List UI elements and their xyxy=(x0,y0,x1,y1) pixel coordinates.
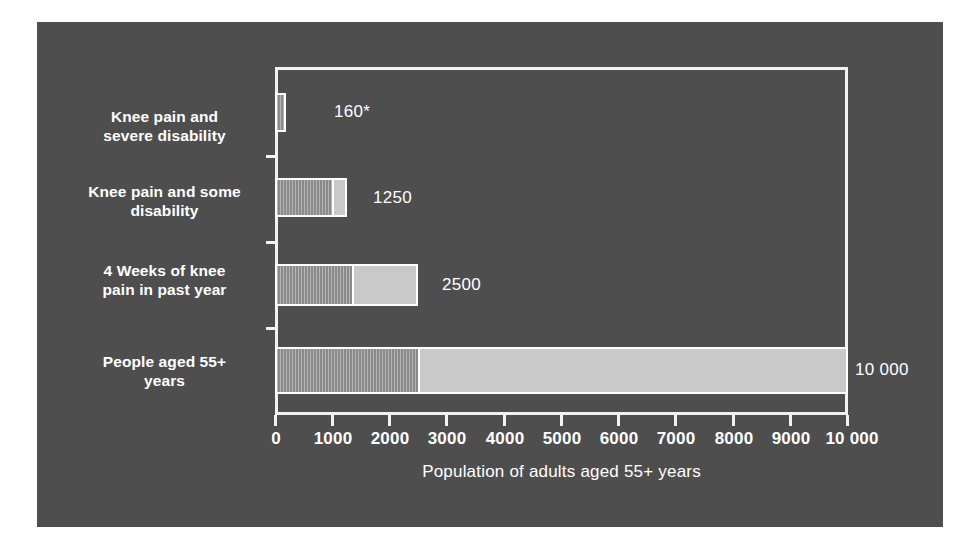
x-axis-tick-label-8000: 8000 xyxy=(715,429,754,449)
category-label-line1: People aged 55+ xyxy=(57,352,272,371)
x-axis-tick xyxy=(617,415,620,426)
x-axis-tick-label-7000: 7000 xyxy=(657,429,696,449)
category-label-line2: severe disability xyxy=(57,126,272,145)
category-label-line2: disability xyxy=(57,201,272,220)
category-label-people-aged-55-plus: People aged 55+ years xyxy=(57,352,272,390)
x-axis-tick-label-9000: 9000 xyxy=(772,429,811,449)
x-axis-tick xyxy=(388,415,391,426)
y-axis-tick xyxy=(266,241,275,244)
x-axis-tick xyxy=(274,415,277,426)
x-axis-tick xyxy=(789,415,792,426)
category-label-knee-pain-severe-disability: Knee pain and severe disability xyxy=(57,107,272,145)
bar-value-label-2500: 2500 xyxy=(442,275,481,295)
bar-segment-hatched xyxy=(275,178,332,217)
y-axis-tick xyxy=(266,327,275,330)
category-label-line2: years xyxy=(57,371,272,390)
bar-value-label-10000: 10 000 xyxy=(855,360,909,380)
x-axis-tick-label-5000: 5000 xyxy=(543,429,582,449)
y-axis-tick xyxy=(266,155,275,158)
x-axis-tick-label-10000: 10 000 xyxy=(825,429,878,449)
x-axis-tick-label-2000: 2000 xyxy=(371,429,410,449)
category-label-line2: pain in past year xyxy=(57,280,272,299)
bar-segment-light xyxy=(418,347,848,394)
x-axis-tick xyxy=(674,415,677,426)
bar-segment-light xyxy=(352,264,418,306)
bar-knee-pain-severe-disability xyxy=(275,93,286,132)
bar-4-weeks-knee-pain xyxy=(275,264,418,306)
bar-segment-hatched xyxy=(275,347,418,394)
x-axis-title: Population of adults aged 55+ years xyxy=(275,462,848,482)
x-axis-tick xyxy=(846,415,849,426)
x-axis-tick-label-1000: 1000 xyxy=(314,429,353,449)
category-label-line1: 4 Weeks of knee xyxy=(57,261,272,280)
chart-panel: Knee pain and severe disability Knee pai… xyxy=(37,22,943,527)
bar-people-aged-55-plus xyxy=(275,347,848,394)
x-axis-tick-label-6000: 6000 xyxy=(600,429,639,449)
x-axis-tick xyxy=(560,415,563,426)
bar-value-label-1250: 1250 xyxy=(373,188,412,208)
bar-knee-pain-some-disability xyxy=(275,178,347,217)
bar-segment-light xyxy=(332,178,347,217)
category-label-knee-pain-some-disability: Knee pain and some disability xyxy=(57,182,272,220)
x-axis-tick-label-4000: 4000 xyxy=(486,429,525,449)
x-axis-tick xyxy=(331,415,334,426)
figure: Knee pain and severe disability Knee pai… xyxy=(0,0,980,548)
category-label-line1: Knee pain and some xyxy=(57,182,272,201)
bar-segment-hatched xyxy=(275,93,286,132)
x-axis-tick xyxy=(732,415,735,426)
x-axis-tick xyxy=(503,415,506,426)
bar-segment-hatched xyxy=(275,264,352,306)
x-axis-tick-label-0: 0 xyxy=(271,429,281,449)
x-axis-tick xyxy=(445,415,448,426)
category-label-4-weeks-knee-pain: 4 Weeks of knee pain in past year xyxy=(57,261,272,299)
x-axis-tick-label-3000: 3000 xyxy=(428,429,467,449)
category-label-line1: Knee pain and xyxy=(57,107,272,126)
bar-value-label-160: 160* xyxy=(334,102,370,122)
